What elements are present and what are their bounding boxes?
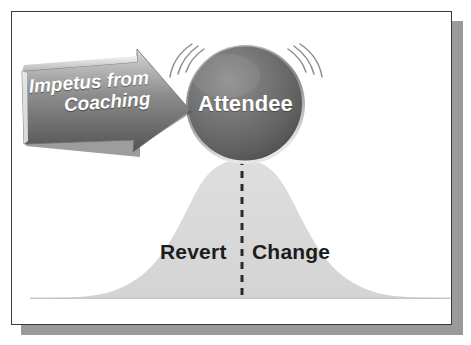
region-label-revert: Revert <box>160 241 227 262</box>
diagram-card <box>11 11 452 325</box>
region-label-change: Change <box>252 241 330 262</box>
sphere-label: Attendee <box>186 93 305 115</box>
diagram-canvas: Impetus from Coaching Attendee Revert Ch… <box>0 0 471 345</box>
diagram-inner-canvas <box>12 12 451 324</box>
